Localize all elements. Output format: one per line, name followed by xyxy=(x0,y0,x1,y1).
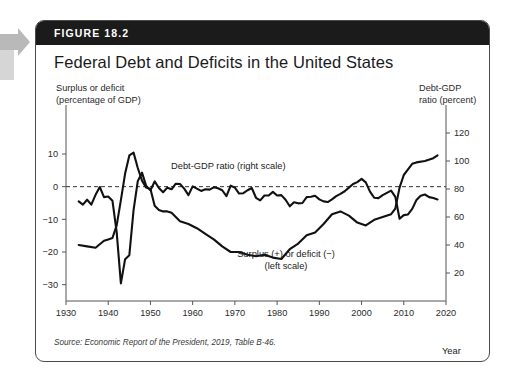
svg-text:2010: 2010 xyxy=(394,308,414,318)
x-axis-title: Year xyxy=(442,346,461,356)
svg-text:0: 0 xyxy=(53,182,58,192)
chart-plot-area: −30−20−100102040608010012019301940195019… xyxy=(36,21,490,362)
page-edge-tab xyxy=(0,28,30,80)
svg-text:1960: 1960 xyxy=(182,308,202,318)
svg-text:80: 80 xyxy=(454,184,464,194)
svg-text:1980: 1980 xyxy=(267,308,287,318)
svg-text:−10: −10 xyxy=(42,215,58,225)
svg-text:1930: 1930 xyxy=(56,308,76,318)
annotation-deficit: Surplus (+) or deficit (−) (left scale) xyxy=(196,249,376,272)
svg-text:40: 40 xyxy=(454,240,464,250)
svg-text:2000: 2000 xyxy=(351,308,371,318)
svg-text:100: 100 xyxy=(454,156,469,166)
svg-text:20: 20 xyxy=(454,268,464,278)
svg-text:−20: −20 xyxy=(42,247,58,257)
source-note: Source: Economic Report of the President… xyxy=(54,338,276,347)
svg-text:2020: 2020 xyxy=(436,308,456,318)
figure-container: FIGURE 18.2 Federal Debt and Deficits in… xyxy=(35,20,490,362)
svg-text:1990: 1990 xyxy=(309,308,329,318)
svg-text:120: 120 xyxy=(454,128,469,138)
svg-text:1940: 1940 xyxy=(98,308,118,318)
svg-text:−30: −30 xyxy=(42,280,58,290)
svg-text:10: 10 xyxy=(48,149,58,159)
svg-text:1950: 1950 xyxy=(140,308,160,318)
svg-text:60: 60 xyxy=(454,212,464,222)
svg-text:1970: 1970 xyxy=(225,308,245,318)
annotation-debt-ratio: Debt-GDP ratio (right scale) xyxy=(171,161,286,173)
